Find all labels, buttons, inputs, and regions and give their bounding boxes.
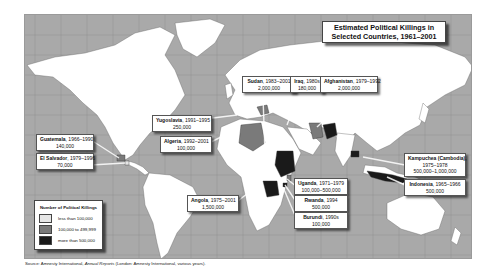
label-burundi: Burundi, 1990s 100,000 — [294, 212, 348, 229]
legend-swatch-high — [39, 236, 52, 245]
label-cambodia: Kampuchea (Cambodia), 1975–1978 500,000–… — [404, 153, 466, 177]
label-guatemala: Guatemala, 1966–1990 140,000 — [36, 134, 94, 151]
label-yugoslavia: Yugoslavia, 1991–1995 250,000 — [152, 115, 212, 132]
label-iraq: Iraq, 1980s 180,000 — [290, 76, 324, 93]
source-note: Source: Amnesty International, Annual Re… — [25, 261, 206, 266]
label-el-salvador: El Salvador, 1979–1996 70,000 — [36, 153, 94, 170]
map-title: Estimated Political Killings in Selected… — [322, 21, 446, 43]
label-afghanistan: Afghanistan, 1979–1992 2,000,000 — [320, 76, 378, 93]
legend-item-mid: 100,000 to 499,999 — [35, 224, 102, 235]
legend-swatch-mid — [39, 225, 52, 234]
label-angola: Angola, 1975–2001 1,500,000 — [187, 195, 239, 212]
map-legend: Number of Political Killings less than 1… — [34, 200, 103, 250]
title-line-2: Selected Countries, 1961–2001 — [323, 33, 445, 42]
label-indonesia: Indonesia, 1965–1966 500,000 — [404, 179, 466, 196]
legend-swatch-low — [39, 214, 52, 223]
legend-item-low: less than 100,000 — [35, 213, 102, 224]
legend-item-high: more than 500,000 — [35, 235, 102, 246]
label-uganda: Uganda, 1971–1979 100,000–500,000 — [294, 178, 348, 195]
label-algeria: Algeria, 1992–2001 100,000 — [160, 136, 212, 153]
label-rwanda: Rwanda, 1994 500,000 — [294, 195, 348, 212]
legend-title: Number of Political Killings — [35, 205, 102, 210]
label-sudan: Sudan, 1983–2001 2,000,000 — [242, 76, 296, 93]
